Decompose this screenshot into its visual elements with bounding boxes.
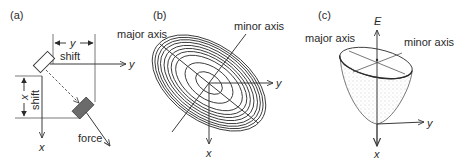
- b-y-axis-label: y: [275, 77, 283, 89]
- panel-a-label: (a): [10, 9, 23, 21]
- a-y-axis-label: y: [128, 58, 136, 70]
- panel-c-label: (c): [318, 9, 331, 21]
- c-major-axis-label: major axis: [305, 32, 356, 44]
- c-minor-axis-label: minor axis: [404, 36, 455, 48]
- x-shift-text: shift: [29, 90, 41, 110]
- y-shift-text: shift: [60, 50, 80, 62]
- gray-box-displaced: [72, 97, 94, 119]
- c-x-axis-label: x: [373, 148, 380, 160]
- c-y-axis-label: y: [426, 117, 434, 129]
- panel-c: (c) E major axis minor axis y x: [305, 9, 455, 160]
- a-x-axis-label: x: [38, 141, 45, 153]
- c-y-axis: [377, 122, 424, 124]
- panel-b: (b) major axis minor axis y x: [117, 9, 285, 159]
- white-box-original: [33, 51, 54, 72]
- c-e-axis-label: E: [374, 15, 382, 27]
- figure: (a) y shift y x shift x: [0, 0, 464, 166]
- dashed-displacement-line: [46, 70, 79, 103]
- b-x-axis-label: x: [205, 147, 212, 159]
- force-label: force: [78, 132, 102, 144]
- panel-b-label: (b): [153, 9, 166, 21]
- c-center-point: [376, 59, 378, 61]
- b-major-axis-label: major axis: [117, 28, 168, 40]
- b-minor-axis-label: minor axis: [234, 20, 285, 32]
